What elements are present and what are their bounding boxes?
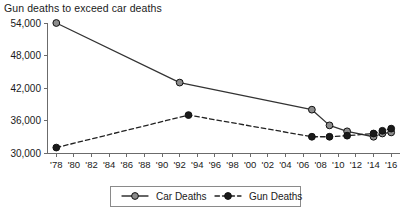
x-tick-label: '78	[50, 159, 62, 170]
series-line-gun-deaths	[56, 115, 391, 148]
x-tick-label: '98	[226, 159, 238, 170]
x-tick-label: '16	[385, 159, 397, 170]
y-tick-label: 54,000	[10, 18, 41, 29]
x-tick-label: '14	[367, 159, 379, 170]
x-tick-label: '02	[262, 159, 274, 170]
x-tick-label: '88	[138, 159, 150, 170]
data-point-gun-deaths[interactable]	[185, 112, 192, 119]
x-tick-label: '06	[297, 159, 309, 170]
x-tick-label: '96	[209, 159, 221, 170]
data-point-gun-deaths[interactable]	[53, 144, 60, 151]
x-tick-label: '80	[68, 159, 80, 170]
x-tick-label: '12	[350, 159, 362, 170]
legend-label-car-deaths[interactable]: Car Deaths	[156, 191, 207, 202]
y-tick-label: 48,000	[10, 50, 41, 61]
x-tick-label: '82	[85, 159, 97, 170]
legend-marker-car-deaths	[132, 193, 139, 200]
data-point-gun-deaths[interactable]	[344, 132, 351, 139]
data-point-gun-deaths[interactable]	[308, 133, 315, 140]
data-point-gun-deaths[interactable]	[326, 133, 333, 140]
x-tick-label: '10	[332, 159, 344, 170]
data-point-car-deaths[interactable]	[53, 20, 60, 27]
data-point-gun-deaths[interactable]	[370, 130, 377, 137]
data-point-car-deaths[interactable]	[308, 106, 315, 113]
series-line-car-deaths	[56, 23, 391, 137]
data-point-car-deaths[interactable]	[326, 122, 333, 129]
y-tick-label: 30,000	[10, 148, 41, 159]
y-axis: 30,00036,00042,00048,00054,000	[10, 18, 47, 159]
chart-legend: Car DeathsGun Deaths	[110, 186, 302, 206]
x-tick-label: '94	[191, 159, 203, 170]
data-point-car-deaths[interactable]	[176, 79, 183, 86]
x-axis: '78'80'82'84'86'88'90'92'94'96'98'00'02'…	[48, 153, 401, 170]
x-tick-label: '84	[103, 159, 115, 170]
y-tick-label: 42,000	[10, 83, 41, 94]
chart-container: Gun deaths to exceed car deaths 30,00036…	[0, 0, 410, 213]
y-tick-label: 36,000	[10, 115, 41, 126]
legend-marker-gun-deaths	[225, 193, 232, 200]
x-tick-label: '00	[244, 159, 256, 170]
x-tick-label: '08	[314, 159, 326, 170]
x-tick-label: '90	[156, 159, 168, 170]
x-tick-label: '04	[279, 159, 291, 170]
x-tick-label: '92	[173, 159, 185, 170]
chart-plot-area: 30,00036,00042,00048,00054,000 '78'80'82…	[0, 0, 410, 213]
legend-label-gun-deaths[interactable]: Gun Deaths	[249, 191, 302, 202]
data-point-gun-deaths[interactable]	[379, 127, 386, 134]
data-series-group	[53, 20, 395, 151]
x-tick-label: '86	[121, 159, 133, 170]
data-point-gun-deaths[interactable]	[388, 125, 395, 132]
